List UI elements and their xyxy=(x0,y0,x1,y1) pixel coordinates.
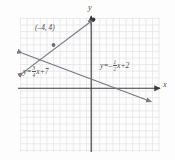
line-1-equals: = xyxy=(26,67,31,76)
grid-lines xyxy=(21,18,160,152)
line-1-upper-dot xyxy=(91,18,95,22)
line-1-constant: 7 xyxy=(45,67,49,76)
intersection-point-marker xyxy=(52,43,56,47)
line-2-denominator: 2 xyxy=(113,66,117,72)
graph-figure: y x (–4, 4) y=34x+7 y=–12x+2 xyxy=(0,0,175,160)
intersection-point-label: (–4, 4) xyxy=(35,24,55,31)
line-1-equation-label: y=34x+7 xyxy=(23,66,49,78)
line-2-minus: – xyxy=(109,61,113,70)
coordinate-plane-svg xyxy=(0,0,175,160)
line-2-constant: 2 xyxy=(126,61,130,70)
line-2-fraction: 12 xyxy=(113,60,117,72)
line-2-equation-label: y=–12x+2 xyxy=(100,60,129,72)
x-axis-label: x xyxy=(163,81,167,89)
y-axis-label: y xyxy=(88,4,92,12)
